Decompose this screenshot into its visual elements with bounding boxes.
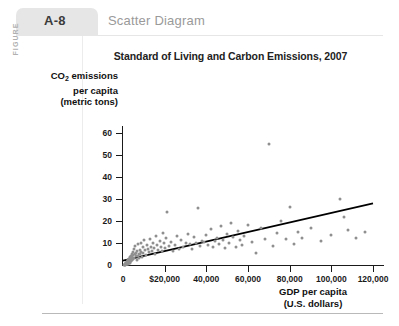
scatter-point <box>215 236 218 239</box>
y-tick <box>116 199 122 200</box>
scatter-point <box>238 238 241 241</box>
scatter-point <box>309 226 312 229</box>
scatter-point <box>192 236 195 239</box>
scatter-point <box>234 246 237 249</box>
x-tick <box>165 266 166 272</box>
y-tick-label: 10 <box>86 238 112 248</box>
x-tick-label: 60,000 <box>235 274 261 284</box>
scatter-point <box>194 242 197 245</box>
scatter-point <box>205 233 208 236</box>
y-tick-label: 40 <box>86 172 112 182</box>
scatter-point <box>288 205 291 208</box>
scatter-point <box>172 249 175 252</box>
figure-page: FIGURE A-8 Scatter Diagram Standard of L… <box>0 0 399 326</box>
scatter-point <box>149 237 152 240</box>
scatter-point <box>230 222 233 225</box>
scatter-point <box>153 247 156 250</box>
scatter-point <box>160 249 163 252</box>
figure-vertical-label: FIGURE <box>12 17 19 61</box>
scatter-point <box>247 224 250 227</box>
scatter-point <box>251 240 254 243</box>
scatter-point <box>162 242 165 245</box>
figure-header: FIGURE A-8 Scatter Diagram <box>16 8 376 35</box>
scatter-point <box>222 239 225 242</box>
scatter-point <box>284 238 287 241</box>
scatter-point <box>319 240 322 243</box>
scatter-point <box>272 245 275 248</box>
scatter-point <box>158 239 161 242</box>
scatter-point <box>338 198 341 201</box>
scatter-point <box>228 242 231 245</box>
x-tick-label: $20,000 <box>149 274 180 284</box>
scatter-point <box>163 246 166 249</box>
scatter-point <box>139 241 142 244</box>
scatter-point <box>267 143 270 146</box>
x-tick <box>248 266 249 272</box>
scatter-point <box>207 243 210 246</box>
y-tick <box>116 155 122 156</box>
scatter-point <box>280 220 283 223</box>
scatter-point <box>355 236 358 239</box>
y-axis-title-line3: (metric tons) <box>60 96 118 107</box>
scatter-point <box>144 253 147 256</box>
scatter-point <box>197 206 200 209</box>
scatter-point <box>140 256 143 259</box>
scatter-point <box>259 227 262 230</box>
y-axis-title-co: CO <box>51 70 65 81</box>
y-axis-title: CO2 emissions per capita (metric tons) <box>10 70 118 108</box>
scatter-point <box>276 232 279 235</box>
y-axis-title-line1: CO2 emissions <box>51 70 118 81</box>
scatter-point <box>155 234 158 237</box>
scatter-point <box>161 231 164 234</box>
x-axis-title: GDP per capita (U.S. dollars) <box>233 286 393 309</box>
x-tick-label: 100,000 <box>316 274 347 284</box>
x-axis-title-line1: GDP per capita <box>279 286 347 297</box>
y-tick-label: 50 <box>86 150 112 160</box>
scatter-point <box>154 253 157 256</box>
y-axis-title-line2: per capita <box>73 85 118 96</box>
scatter-point <box>240 244 243 247</box>
scatter-point <box>217 242 220 245</box>
scatter-point <box>226 233 229 236</box>
scatter-point <box>297 231 300 234</box>
scatter-point <box>178 247 181 250</box>
x-tick <box>206 266 207 272</box>
scatter-point <box>263 237 266 240</box>
scatter-point <box>236 230 239 233</box>
scatter-point <box>301 237 304 240</box>
x-tick-label: 80,000 <box>277 274 303 284</box>
scatter-point <box>143 238 146 241</box>
scatter-point <box>167 245 170 248</box>
scatter-point <box>203 241 206 244</box>
scatter-point <box>213 240 216 243</box>
chart-title: Standard of Living and Carbon Emissions,… <box>83 50 378 62</box>
scatter-point <box>242 235 245 238</box>
scatter-point <box>174 244 177 247</box>
x-tick-label: 120,000 <box>358 274 389 284</box>
scatter-point <box>347 228 350 231</box>
figure-number: A-8 <box>44 13 66 28</box>
scatter-point <box>199 244 202 247</box>
y-tick-label: 30 <box>86 194 112 204</box>
scatter-point <box>169 240 172 243</box>
scatter-point <box>184 241 187 244</box>
scatter-point <box>190 248 193 251</box>
x-axis-title-line2: (U.S. dollars) <box>284 298 343 309</box>
scatter-point <box>363 231 366 234</box>
scatter-point <box>255 252 258 255</box>
scatter-point <box>209 228 212 231</box>
x-tick <box>331 266 332 272</box>
scatter-point <box>292 243 295 246</box>
scatter-point <box>159 246 162 249</box>
scatter-point <box>219 225 222 228</box>
scatter-point <box>342 215 345 218</box>
x-tick-label: 40,000 <box>193 274 219 284</box>
scatter-point <box>164 237 167 240</box>
scatter-point <box>186 232 189 235</box>
figure-caption: Scatter Diagram <box>108 13 205 28</box>
y-tick <box>116 177 122 178</box>
chart-card: Standard of Living and Carbon Emissions,… <box>82 36 384 304</box>
x-tick <box>373 266 374 272</box>
scatter-point <box>146 244 149 247</box>
y-tick <box>116 243 122 244</box>
